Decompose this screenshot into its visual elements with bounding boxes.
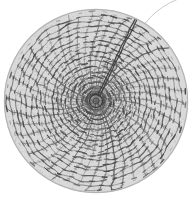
specimen-canvas [0, 0, 193, 215]
specimen-figure: Circular radial mesh specimen Grayscale … [0, 0, 193, 215]
